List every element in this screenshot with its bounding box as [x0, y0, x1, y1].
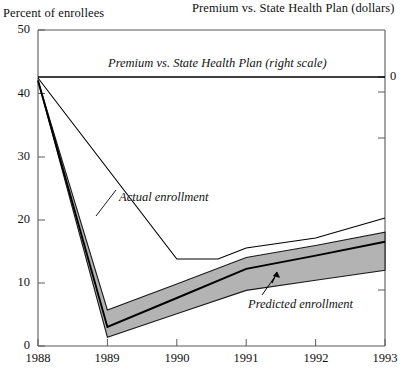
x-tick-label-1992: 1992 — [294, 351, 338, 366]
left-axis-title: Percent of enrollees — [3, 6, 104, 21]
chart-figure: Percent of enrollees Premium vs. State H… — [0, 0, 417, 373]
y-tick-label-30: 30 — [2, 149, 30, 164]
y-tick-label-40: 40 — [2, 86, 30, 101]
y-right-tick-label-0: 0 — [390, 69, 396, 84]
actual-enrollment-label: Actual enrollment — [119, 190, 208, 205]
y-tick-label-20: 20 — [2, 212, 30, 227]
y-tick-label-10: 10 — [2, 275, 30, 290]
predicted-enrollment-label: Predicted enrollment — [248, 297, 353, 312]
x-tick-label-1988: 1988 — [16, 351, 60, 366]
premium-line-label: Premium vs. State Health Plan (right sca… — [108, 56, 327, 71]
x-tick-label-1991: 1991 — [224, 351, 268, 366]
y-tick-label-50: 50 — [2, 22, 30, 37]
x-tick-label-1989: 1989 — [85, 351, 129, 366]
right-axis-title: Premium vs. State Health Plan (dollars) — [192, 1, 394, 16]
actual-enrollment-leader-line — [96, 190, 116, 216]
x-axis-ticks — [38, 339, 385, 346]
x-tick-label-1993: 1993 — [363, 351, 407, 366]
actual-enrollment-line — [38, 78, 385, 259]
x-tick-label-1990: 1990 — [155, 351, 199, 366]
